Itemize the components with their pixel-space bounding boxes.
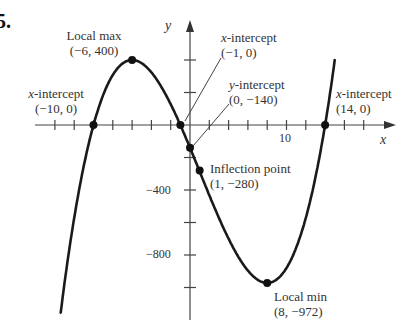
leader-lines <box>185 58 229 146</box>
key-point-inflection-point <box>196 167 204 175</box>
key-point-local-min <box>263 279 271 287</box>
x-intercept-right-coord: (14, 0) <box>336 101 392 116</box>
local-max-title: Local max <box>60 28 128 43</box>
x-intercept-left-coord: (−10, 0) <box>20 101 92 116</box>
x-tick-label-10: 10 <box>279 131 291 146</box>
x-axis-arrow-icon <box>384 121 396 129</box>
y-tick-label-minus-800: −800 <box>146 247 171 262</box>
x-axis <box>35 120 396 130</box>
annotation-x-intercept-right: x-intercept (14, 0) <box>336 86 392 116</box>
key-point-x-intercept <box>90 121 98 129</box>
y-intercept-coord: (0, −140) <box>229 92 285 107</box>
y-axis-arrow-icon <box>186 20 194 32</box>
annotation-y-intercept: y-intercept (0, −140) <box>229 77 285 107</box>
annotation-x-intercept-mid: x-intercept (−1, 0) <box>221 30 277 60</box>
key-point-local-max <box>128 56 136 64</box>
y-axis-label: y <box>165 18 171 33</box>
key-point-x-intercept <box>321 121 329 129</box>
local-min-coord: (8, −972) <box>274 304 327 319</box>
annotation-inflection-point: Inflection point (1, −280) <box>210 161 291 191</box>
local-min-title: Local min <box>274 289 327 304</box>
annotation-local-max: Local max (−6, 400) <box>60 28 128 58</box>
y-axis <box>184 20 196 320</box>
key-point-y-intercept <box>186 144 194 152</box>
y-tick-label-minus-400: −400 <box>146 183 171 198</box>
annotation-x-intercept-left: x-intercept (−10, 0) <box>20 86 92 116</box>
x-axis-label: x <box>380 132 386 147</box>
x-intercept-mid-coord: (−1, 0) <box>221 45 277 60</box>
annotation-local-min: Local min (8, −972) <box>274 289 327 319</box>
key-point-x-intercept <box>176 121 184 129</box>
local-max-coord: (−6, 400) <box>60 43 128 58</box>
inflection-title: Inflection point <box>210 161 291 176</box>
inflection-coord: (1, −280) <box>210 176 291 191</box>
